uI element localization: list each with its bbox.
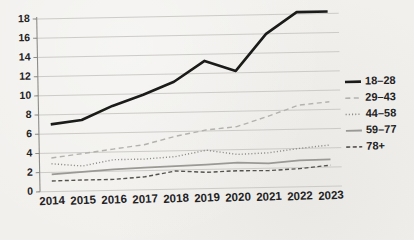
y-tick-label: 4 [26,146,32,158]
x-tick-label: 2023 [318,189,344,202]
x-tick-label: 2015 [70,193,97,206]
legend-label: 59–77 [366,123,397,136]
y-tick-label: 8 [26,108,32,120]
gridline-y [37,148,341,154]
y-tick-label: 2 [27,166,33,178]
gridline-y [37,109,341,115]
gridline-y [35,32,339,38]
series-line-44-58 [51,145,330,167]
y-tick-label: 12 [19,70,31,82]
photo-background: 0246810121416182014201520162017201820192… [0,0,414,225]
legend-label: 29–43 [365,90,396,103]
y-axis-line [37,17,40,192]
legend-label: 18–28 [365,74,396,87]
legend-label: 78+ [366,139,385,151]
x-tick-label: 2017 [132,192,158,205]
legend-item: 44–58 [345,106,396,119]
x-tick-label: 2016 [101,193,127,206]
y-tick-label: 18 [18,12,30,24]
series-line-18-28 [49,12,330,125]
gridline-y [36,90,340,96]
x-tick-label: 2019 [194,191,220,204]
x-tick-label: 2014 [39,194,66,207]
legend-item: 78+ [346,139,385,152]
legend-item: 18–28 [345,74,396,87]
y-tick-label: 6 [26,127,32,139]
gridline-y [35,52,339,58]
legend-item: 29–43 [345,90,396,103]
legend-label: 44–58 [365,106,396,119]
x-tick-label: 2018 [163,191,190,204]
age-group-line-chart: 0246810121416182014201520162017201820192… [0,0,414,225]
y-tick-label: 16 [18,31,30,43]
chart-tilt-wrapper: 0246810121416182014201520162017201820192… [0,0,414,225]
x-tick-label: 2020 [225,190,251,203]
x-tick-label: 2022 [287,189,313,202]
y-tick-label: 14 [19,50,31,62]
legend-item: 59–77 [346,123,397,136]
y-tick-label: 10 [19,89,31,101]
y-tick-label: 0 [27,185,33,197]
x-tick-label: 2021 [256,190,283,203]
